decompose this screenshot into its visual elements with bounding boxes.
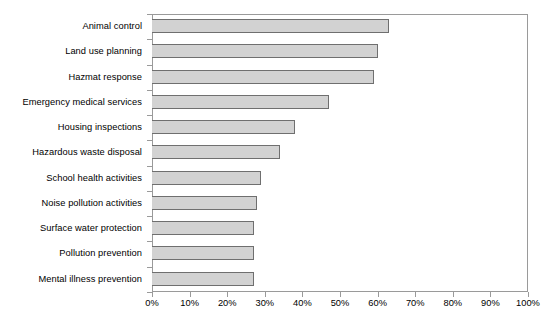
bar <box>152 272 254 286</box>
x-axis-tick-label: 100% <box>516 298 540 308</box>
bar <box>152 171 261 185</box>
y-axis-tick <box>147 90 152 91</box>
x-axis: 0%10%20%30%40%50%60%70%80%90%100% <box>0 292 557 324</box>
y-axis-tick <box>147 39 152 40</box>
bar-row <box>152 65 528 90</box>
bar <box>152 44 378 58</box>
x-axis-tick-label: 70% <box>406 298 425 308</box>
x-axis-tick-label: 50% <box>331 298 350 308</box>
bar-row <box>152 140 528 165</box>
bar <box>152 145 280 159</box>
y-axis-tick <box>147 216 152 217</box>
bars-layer <box>152 14 528 292</box>
x-axis-tick <box>378 292 379 297</box>
bar-row <box>152 191 528 216</box>
category-label: Land use planning <box>65 39 142 64</box>
bar-row <box>152 267 528 292</box>
category-label: Hazardous waste disposal <box>32 140 142 165</box>
y-axis-tick <box>147 292 152 293</box>
x-axis-tick <box>453 292 454 297</box>
bar-row <box>152 115 528 140</box>
bar-row <box>152 216 528 241</box>
x-axis-tick <box>265 292 266 297</box>
category-label: Emergency medical services <box>22 90 142 115</box>
category-label: Noise pollution activities <box>41 191 142 216</box>
x-axis-tick <box>302 292 303 297</box>
bar <box>152 246 254 260</box>
x-axis-tick <box>227 292 228 297</box>
x-axis-tick <box>528 292 529 297</box>
x-axis-tick-label: 80% <box>443 298 462 308</box>
y-axis-tick <box>147 267 152 268</box>
bar <box>152 120 295 134</box>
x-axis-tick <box>490 292 491 297</box>
x-axis-tick-label: 10% <box>180 298 199 308</box>
y-axis-tick <box>147 140 152 141</box>
category-label: Mental illness prevention <box>38 267 142 292</box>
bar <box>152 19 389 33</box>
x-axis-tick <box>190 292 191 297</box>
bar-row <box>152 39 528 64</box>
bar <box>152 70 374 84</box>
bar <box>152 221 254 235</box>
category-label: Housing inspections <box>58 115 142 140</box>
y-axis-tick <box>147 14 152 15</box>
x-axis-tick <box>340 292 341 297</box>
y-axis-tick <box>147 166 152 167</box>
category-axis-labels: Animal controlLand use planningHazmat re… <box>0 14 148 292</box>
x-axis-tick-label: 0% <box>145 298 158 308</box>
bar-row <box>152 241 528 266</box>
bar <box>152 196 257 210</box>
bar-row <box>152 90 528 115</box>
x-axis-tick <box>152 292 153 297</box>
category-label: Surface water protection <box>40 216 142 241</box>
x-axis-tick-label: 20% <box>218 298 237 308</box>
x-axis-tick <box>415 292 416 297</box>
bar-row <box>152 166 528 191</box>
y-axis-tick <box>147 241 152 242</box>
category-label: School health activities <box>46 166 142 191</box>
category-label: Animal control <box>82 14 142 39</box>
y-axis-tick <box>147 65 152 66</box>
category-label: Hazmat response <box>68 65 142 90</box>
bar-row <box>152 14 528 39</box>
x-axis-tick-label: 90% <box>481 298 500 308</box>
category-label: Pollution prevention <box>59 241 142 266</box>
bar <box>152 95 329 109</box>
bar-chart: Animal controlLand use planningHazmat re… <box>0 0 557 324</box>
y-axis-tick <box>147 191 152 192</box>
y-axis-tick <box>147 115 152 116</box>
x-axis-tick-label: 60% <box>368 298 387 308</box>
x-axis-tick-label: 30% <box>255 298 274 308</box>
x-axis-tick-label: 40% <box>293 298 312 308</box>
